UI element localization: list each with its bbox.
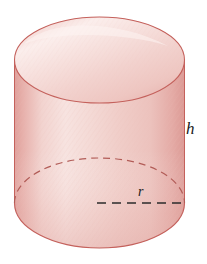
height-label: h	[186, 120, 195, 137]
cylinder-bottom-shadow	[0, 150, 207, 264]
cylinder-diagram-svg	[0, 0, 207, 264]
cylinder-top-face	[15, 17, 185, 103]
radius-label: r	[138, 185, 143, 199]
cylinder-figure: h r	[0, 0, 207, 264]
